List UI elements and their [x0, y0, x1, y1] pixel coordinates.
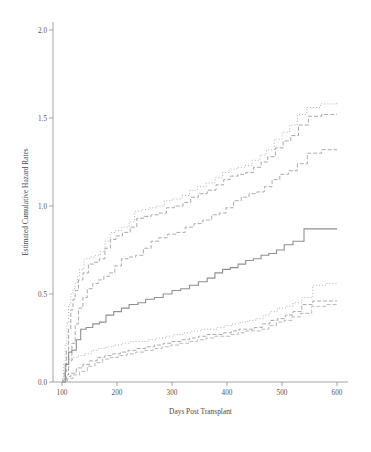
y-axis-tick-label: 0.5	[38, 291, 47, 299]
x-axis-tick-label: 500	[277, 389, 288, 397]
x-axis-tick-label: 300	[167, 389, 178, 397]
hazard-rate-chart-figure: 0.00.51.01.52.0100200300400500600Days Po…	[0, 0, 371, 452]
hazard-curve-upper-band-dotted	[62, 102, 337, 378]
axis-labels-group: 0.00.51.01.52.0100200300400500600Days Po…	[21, 27, 343, 416]
x-axis-tick-label: 200	[112, 389, 123, 397]
hazard-curve-upper-band-dashdot	[62, 150, 337, 382]
x-axis-tick-label: 400	[222, 389, 233, 397]
x-axis-title: Days Post Transplant	[169, 407, 233, 416]
y-axis-tick-label: 0.0	[38, 379, 47, 387]
chart-plot-area: 0.00.51.01.52.0100200300400500600Days Po…	[0, 0, 371, 452]
hazard-curve-upper-band-dashed	[62, 114, 337, 380]
y-axis-tick-label: 1.5	[38, 115, 47, 123]
y-axis-tick-label: 2.0	[38, 27, 47, 35]
axes-group	[49, 22, 348, 386]
x-axis-tick-label: 100	[57, 389, 68, 397]
hazard-curve-lower-band-dotted	[62, 283, 337, 382]
hazard-curve-center-solid	[62, 229, 337, 382]
y-axis-tick-label: 1.0	[38, 203, 47, 211]
y-axis-title: Estimated Cumulative Hazard Rates	[21, 148, 30, 255]
hazard-curve-lower-band-dashed	[62, 301, 337, 382]
hazard-curve-lower-band-dashdot	[62, 305, 337, 382]
curves-group	[62, 102, 337, 382]
x-axis-tick-label: 600	[332, 389, 343, 397]
